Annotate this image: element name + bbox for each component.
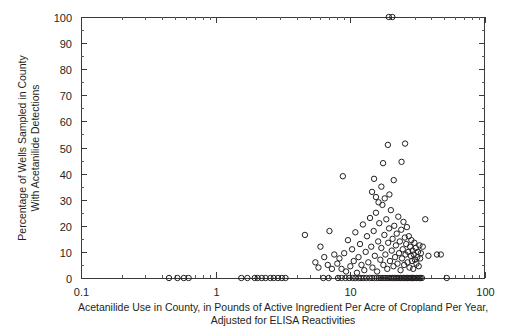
- data-point: [385, 240, 390, 245]
- data-point: [356, 254, 361, 259]
- data-point: [385, 266, 390, 271]
- data-point: [387, 192, 392, 197]
- data-point: [387, 258, 392, 263]
- y-tick-label: 20: [60, 221, 72, 233]
- plot-canvas: 01020304050607080901000.1110100 Acetanil…: [0, 0, 515, 329]
- data-point: [322, 254, 327, 259]
- data-point: [357, 241, 362, 246]
- y-tick-label: 10: [60, 247, 72, 259]
- data-point: [426, 253, 431, 258]
- data-point: [374, 269, 379, 274]
- x-axis-label-line1: Acetanilide Use in County, in Pounds of …: [78, 301, 488, 313]
- data-point: [382, 232, 387, 237]
- x-tick-label: 10: [344, 286, 356, 298]
- data-point: [383, 252, 388, 257]
- y-tick-label: 30: [60, 195, 72, 207]
- data-point: [363, 249, 368, 254]
- y-tick-label: 40: [60, 169, 72, 181]
- tick-marks: [81, 17, 486, 279]
- data-point: [384, 217, 389, 222]
- y-axis-label-line1: Percentage of Wells Sampled in County: [16, 55, 28, 241]
- data-point: [318, 244, 323, 249]
- data-point: [354, 270, 359, 275]
- data-point: [341, 251, 346, 256]
- y-tick-label: 90: [60, 38, 72, 50]
- data-point: [382, 196, 387, 201]
- data-point: [359, 262, 364, 267]
- data-point: [337, 256, 342, 261]
- data-point: [388, 207, 393, 212]
- data-point: [385, 142, 390, 147]
- data-point: [332, 252, 337, 257]
- data-point: [402, 141, 407, 146]
- data-point: [364, 234, 369, 239]
- data-point: [370, 265, 375, 270]
- data-point: [373, 210, 378, 215]
- y-tick-label: 70: [60, 90, 72, 102]
- data-point: [302, 232, 307, 237]
- tick-labels: 01020304050607080901000.1110100: [54, 12, 495, 299]
- data-point: [372, 253, 377, 258]
- data-point: [362, 267, 367, 272]
- data-point: [379, 184, 384, 189]
- data-point: [353, 230, 358, 235]
- data-point: [376, 200, 381, 205]
- data-point: [313, 260, 318, 265]
- data-point: [349, 247, 354, 252]
- data-point: [369, 189, 374, 194]
- x-tick-label: 1: [213, 286, 219, 298]
- data-point: [404, 224, 409, 229]
- data-point: [399, 227, 404, 232]
- data-point: [420, 244, 425, 249]
- data-point: [404, 241, 409, 246]
- x-tick-label: 0.1: [74, 286, 89, 298]
- data-point: [371, 228, 376, 233]
- x-tick-label: 100: [476, 286, 494, 298]
- data-point: [345, 237, 350, 242]
- data-point: [399, 159, 404, 164]
- data-point: [351, 258, 356, 263]
- data-point: [369, 244, 374, 249]
- data-point: [340, 174, 345, 179]
- data-point: [343, 269, 348, 274]
- x-axis-label-line2: Adjusted for ELISA Reactivities: [211, 314, 356, 326]
- data-point: [366, 260, 371, 265]
- data-point: [377, 220, 382, 225]
- data-point: [316, 265, 321, 270]
- data-point: [391, 177, 396, 182]
- data-point: [335, 261, 340, 266]
- y-tick-label: 80: [60, 64, 72, 76]
- data-point: [380, 202, 385, 207]
- data-point: [398, 267, 403, 272]
- data-point: [392, 223, 397, 228]
- axes: [81, 17, 485, 279]
- data-point: [329, 266, 334, 271]
- data-point: [423, 217, 428, 222]
- data-point: [348, 264, 353, 269]
- data-point: [360, 222, 365, 227]
- data-point: [394, 231, 399, 236]
- data-point: [397, 239, 402, 244]
- y-tick-label: 50: [60, 143, 72, 155]
- data-point: [327, 228, 332, 233]
- data-point: [379, 245, 384, 250]
- data-point: [400, 247, 405, 252]
- data-point: [386, 226, 391, 231]
- scatter-plot-figure: 01020304050607080901000.1110100 Acetanil…: [0, 0, 515, 329]
- data-point: [396, 214, 401, 219]
- y-tick-label: 60: [60, 116, 72, 128]
- data-point: [390, 236, 395, 241]
- data-point: [375, 239, 380, 244]
- data-point: [378, 257, 383, 262]
- data-point: [395, 261, 400, 266]
- data-point: [371, 176, 376, 181]
- data-point: [367, 215, 372, 220]
- data-point: [389, 248, 394, 253]
- data-point: [373, 194, 378, 199]
- y-tick-label: 0: [66, 273, 72, 285]
- data-points: [166, 14, 449, 280]
- data-point: [380, 160, 385, 165]
- y-axis-label-line2: With Acetanilide Detections: [29, 84, 41, 211]
- data-point: [438, 252, 443, 257]
- data-point: [401, 219, 406, 224]
